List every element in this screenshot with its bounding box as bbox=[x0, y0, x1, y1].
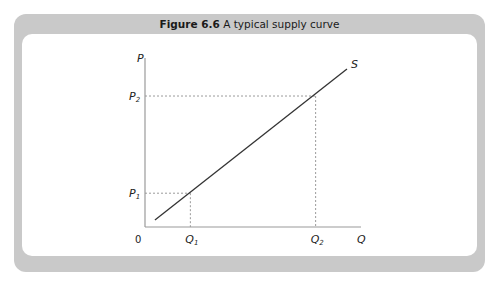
supply-curve-label: S bbox=[351, 58, 358, 71]
x-tick-label-2: Q2 bbox=[311, 233, 325, 247]
supply-curve bbox=[155, 69, 347, 220]
origin-label: 0 bbox=[135, 234, 141, 245]
x-tick-label-1: Q1 bbox=[185, 233, 198, 247]
y-tick-label-2: P2 bbox=[129, 90, 141, 104]
reference-labels: P1Q1P2Q2 bbox=[129, 90, 324, 247]
y-tick-label-1: P1 bbox=[129, 187, 140, 201]
y-axis-label: P bbox=[137, 52, 144, 65]
supply-chart: P Q 0 S P1Q1P2Q2 bbox=[0, 0, 497, 287]
x-axis-label: Q bbox=[357, 233, 366, 246]
